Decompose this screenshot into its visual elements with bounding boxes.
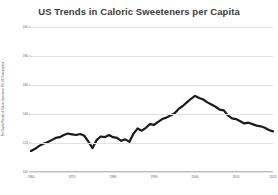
y-axis-tick-mark <box>29 172 31 173</box>
x-axis-tick-label: 1990 <box>151 175 158 179</box>
x-axis-tick-label: 1970 <box>69 175 76 179</box>
y-axis-tick-label: 140 <box>23 112 28 116</box>
y-axis-tick-mark <box>29 27 31 28</box>
gridline-horizontal <box>31 172 273 173</box>
y-axis-tick-label: 120 <box>23 141 28 145</box>
chart-container: US Trends in Caloric Sweeteners per Capi… <box>0 0 278 195</box>
x-axis-tick-label: 2000 <box>192 175 199 179</box>
x-axis-tick-label: 1980 <box>110 175 117 179</box>
x-axis-tick-label: 2019 <box>270 175 277 179</box>
y-axis-tick-label: 160 <box>23 83 28 87</box>
y-axis-tick-mark <box>29 143 31 144</box>
y-axis-tick-mark <box>29 114 31 115</box>
gridline-horizontal <box>31 143 273 144</box>
gridline-horizontal <box>31 56 273 57</box>
y-axis-tick-label: 200 <box>23 25 28 29</box>
gridline-horizontal <box>31 27 273 28</box>
y-axis-tick-mark <box>29 85 31 86</box>
x-axis-tick-label: 2010 <box>233 175 240 179</box>
chart-title: US Trends in Caloric Sweeteners per Capi… <box>0 6 278 17</box>
x-axis-tick-label: 1960 <box>28 175 35 179</box>
y-axis-tick-label: 100 <box>23 170 28 174</box>
gridline-horizontal <box>31 114 273 115</box>
y-axis-title: Per Capita Pounds of Caloric Sweetener P… <box>2 26 5 172</box>
gridline-horizontal <box>31 85 273 86</box>
plot-area: 1001201401601802001960197019801990200020… <box>31 27 273 172</box>
data-series-line <box>31 27 273 172</box>
y-axis-tick-label: 180 <box>23 54 28 58</box>
y-axis-title-wrap: Per Capita Pounds of Caloric Sweetener P… <box>2 26 14 172</box>
y-axis-tick-mark <box>29 56 31 57</box>
